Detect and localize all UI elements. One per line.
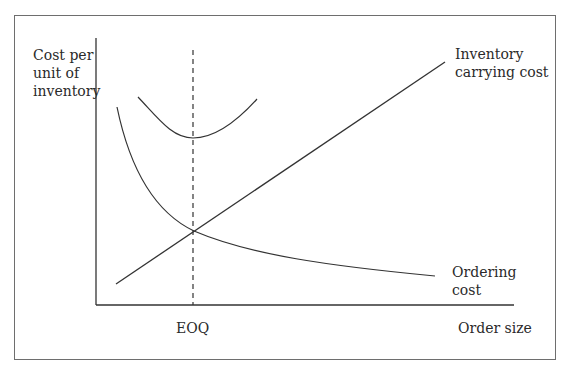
carrying-cost-line	[116, 62, 445, 284]
ordering-cost-label: Ordering cost	[452, 263, 517, 299]
x-axis-label: Order size	[458, 319, 532, 337]
y-axis-label: Cost per unit of inventory	[33, 46, 100, 100]
carrying-cost-label: Inventory carrying cost	[455, 45, 548, 81]
total-cost-curve	[138, 97, 257, 138]
eoq-label: EOQ	[176, 319, 209, 337]
